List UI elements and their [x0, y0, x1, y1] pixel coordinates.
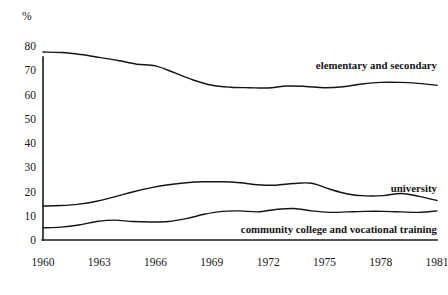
line-chart: % 01020304050607080 19601963196619691972… — [0, 0, 448, 295]
x-tick-1978: 1978 — [369, 256, 392, 268]
x-axis-tick-labels: 19601963196619691972197519781981 — [32, 256, 448, 268]
x-tick-1975: 1975 — [313, 256, 336, 268]
x-tick-1972: 1972 — [257, 256, 280, 268]
y-tick-0: 0 — [30, 234, 36, 246]
y-tick-60: 60 — [25, 89, 37, 101]
y-tick-30: 30 — [25, 161, 37, 173]
y-tick-10: 10 — [25, 210, 37, 222]
x-tick-1963: 1963 — [88, 256, 111, 268]
y-tick-20: 20 — [25, 186, 37, 198]
x-tick-1969: 1969 — [200, 256, 223, 268]
chart-container: % 01020304050607080 19601963196619691972… — [0, 0, 448, 295]
series-lines — [43, 52, 437, 228]
x-tick-1960: 1960 — [32, 256, 55, 268]
y-tick-50: 50 — [25, 113, 37, 125]
series-label-community-college: community college and vocational trainin… — [241, 223, 438, 235]
series-label-elementary-and-secondary: elementary and secondary — [316, 59, 438, 71]
y-tick-80: 80 — [25, 40, 37, 52]
y-axis-tick-labels: 01020304050607080 — [25, 40, 37, 246]
x-tick-1981: 1981 — [426, 256, 448, 268]
y-tick-70: 70 — [25, 64, 37, 76]
y-axis-unit-label: % — [22, 10, 32, 22]
y-tick-40: 40 — [25, 137, 37, 149]
series-label-university: university — [391, 182, 438, 194]
x-tick-1966: 1966 — [144, 256, 167, 268]
series-line-university — [43, 182, 437, 206]
